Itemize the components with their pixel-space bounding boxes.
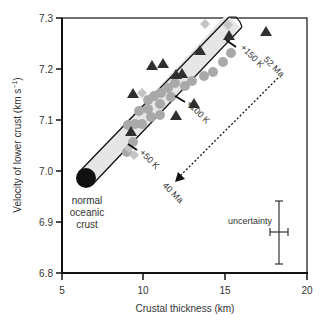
arrowhead-icon: [175, 172, 185, 182]
y-tick-label: 7.3: [39, 13, 53, 24]
label-100k: +100 K: [185, 98, 212, 125]
svg-text:oceanic: oceanic: [70, 207, 104, 218]
x-tick-labels: 5 10 15 20: [59, 285, 313, 296]
label-150k: +150 K: [239, 42, 266, 69]
y-tick-labels: 6.8 6.9 7.0 7.1 7.2 7.3: [39, 13, 53, 279]
y-axis-label: Velocity of lower crust (km s−1): [11, 77, 23, 212]
label-50k: +50 K: [138, 147, 162, 171]
age-arrow: [175, 78, 278, 182]
svg-text:normal: normal: [72, 195, 103, 206]
label-40ma: 40 Ma: [161, 180, 186, 205]
y-tick-label: 7.1: [39, 115, 53, 126]
x-tick-label: 5: [59, 285, 65, 296]
x-axis-label: Crustal thickness (km): [136, 303, 235, 314]
y-tick-label: 7.0: [39, 166, 53, 177]
x-ticks: [62, 273, 307, 280]
circle-markers: [122, 48, 236, 157]
x-tick-label: 10: [137, 285, 149, 296]
x-tick-label: 15: [219, 285, 231, 296]
y-tick-label: 7.2: [39, 64, 53, 75]
label-52ma: 52 Ma: [262, 54, 287, 79]
svg-text:crust: crust: [76, 219, 98, 230]
uncertainty-label: uncertainty: [228, 216, 273, 226]
y-tick-label: 6.8: [39, 268, 53, 279]
normal-oceanic-crust-label: normal oceanic crust: [70, 195, 104, 230]
normal-oceanic-crust-marker: [76, 168, 96, 188]
uncertainty-error-bar: [270, 201, 288, 264]
x-tick-label: 20: [301, 285, 313, 296]
y-tick-label: 6.9: [39, 217, 53, 228]
scatter-chart: 6.8 6.9 7.0 7.1 7.2 7.3 5 10 15 20 Crust…: [0, 0, 323, 323]
